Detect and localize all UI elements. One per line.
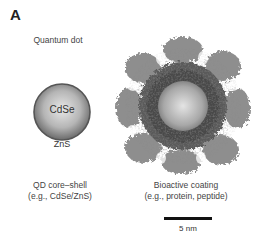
core-shell-caption-line1: QD core–shell [10, 180, 110, 191]
coating-caption: Bioactive coating (e.g., protein, peptid… [118, 180, 254, 202]
scale-bar-label: 5 nm [164, 224, 212, 233]
core-label: CdSe [37, 104, 87, 115]
figure-title: Quantum dot [26, 35, 90, 45]
coating-caption-line2: (e.g., protein, peptide) [118, 191, 254, 202]
core-shell-caption-line2: (e.g., CdSe/ZnS) [10, 191, 110, 202]
coating-caption-line1: Bioactive coating [118, 180, 254, 191]
shell-label: ZnS [37, 139, 87, 149]
scale-bar [164, 217, 212, 220]
core-shell-caption: QD core–shell (e.g., CdSe/ZnS) [10, 180, 110, 202]
bioactive-coated-qd-icon [115, 36, 251, 176]
panel-label: A [10, 6, 21, 23]
